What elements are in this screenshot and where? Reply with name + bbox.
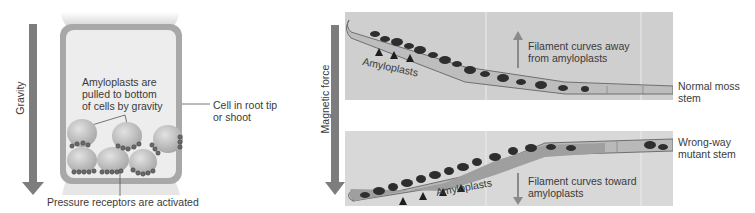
- magnetic-force-arrow-icon: [0, 0, 360, 213]
- mutant-stem-label: Wrong-way mutant stem: [678, 136, 736, 160]
- top-curve-label: Filament curves away from amyloplasts: [528, 40, 630, 64]
- bottom-curve-label: Filament curves toward amyloplasts: [528, 175, 637, 199]
- normal-stem-label: Normal moss stem: [678, 80, 740, 104]
- magnetic-force-label: Magnetic force: [319, 59, 331, 139]
